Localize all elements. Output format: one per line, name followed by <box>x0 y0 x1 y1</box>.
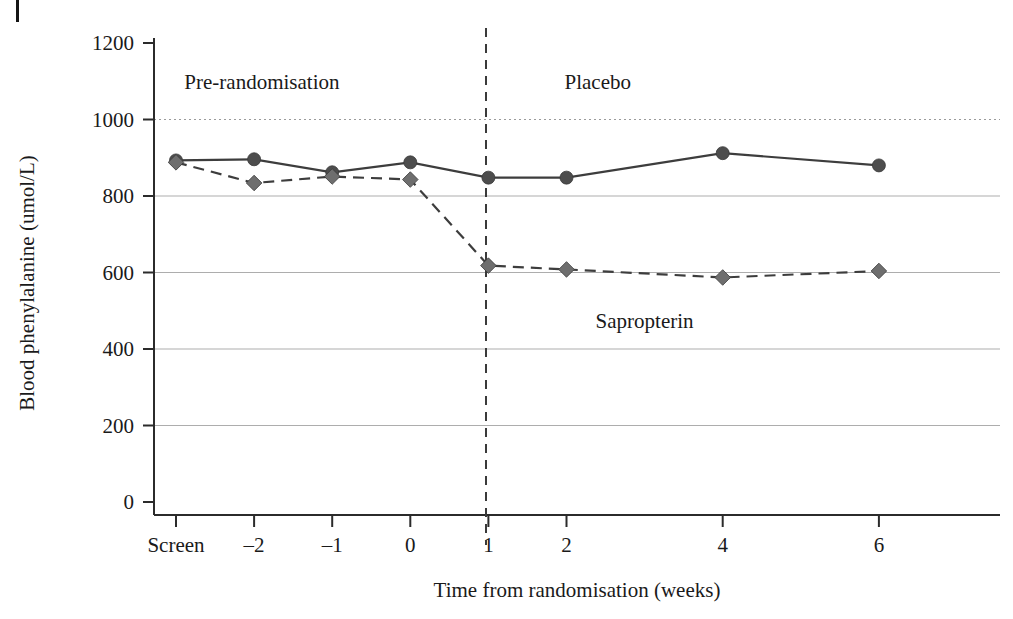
marker-placebo-1 <box>482 171 495 184</box>
y-tick-label-1000: 1000 <box>92 108 134 132</box>
placebo-label: Placebo <box>564 70 630 94</box>
y-tick-label-600: 600 <box>103 261 135 285</box>
x-tick-label-2: 2 <box>561 533 572 557</box>
sapropterin-label: Sapropterin <box>596 309 694 333</box>
y-axis-ticks <box>143 43 154 502</box>
marker-placebo-0 <box>404 156 417 169</box>
x-tick-label-Screen: Screen <box>147 533 205 557</box>
page-corner-marker <box>16 0 19 22</box>
marker-sapropterin-6 <box>871 263 887 279</box>
x-tick-label-1: 1 <box>483 533 494 557</box>
chart-annotations: Pre-randomisationPlaceboSapropterin <box>184 70 694 333</box>
x-tick-label--2: –2 <box>243 533 265 557</box>
marker-sapropterin-0 <box>403 172 419 188</box>
line-chart: 020040060080010001200 Screen–2–101246 Pr… <box>0 0 1013 619</box>
x-tick-label--1: –1 <box>321 533 343 557</box>
x-axis-tick-labels: Screen–2–101246 <box>147 533 884 557</box>
series-line-sapropterin <box>176 162 879 277</box>
pre-randomisation-label: Pre-randomisation <box>184 70 340 94</box>
y-tick-label-400: 400 <box>103 337 135 361</box>
series-layer <box>168 147 887 286</box>
y-tick-label-0: 0 <box>124 490 135 514</box>
marker-placebo-6 <box>872 159 885 172</box>
y-tick-label-1200: 1200 <box>92 31 134 55</box>
y-axis-tick-labels: 020040060080010001200 <box>92 31 134 514</box>
x-axis-ticks <box>176 515 879 527</box>
figure-container: 020040060080010001200 Screen–2–101246 Pr… <box>0 0 1013 619</box>
marker-placebo--2 <box>248 153 261 166</box>
marker-placebo-2 <box>560 171 573 184</box>
y-axis-title: Blood phenylalanine (umol/L) <box>15 155 39 410</box>
y-tick-label-200: 200 <box>103 414 135 438</box>
x-tick-label-4: 4 <box>717 533 728 557</box>
marker-placebo-4 <box>716 147 729 160</box>
marker-sapropterin--2 <box>246 175 262 191</box>
x-tick-label-6: 6 <box>874 533 885 557</box>
marker-sapropterin-2 <box>559 262 575 278</box>
y-tick-label-800: 800 <box>103 184 135 208</box>
series-line-placebo <box>176 153 879 177</box>
x-tick-label-0: 0 <box>405 533 416 557</box>
x-axis-title: Time from randomisation (weeks) <box>434 578 721 602</box>
